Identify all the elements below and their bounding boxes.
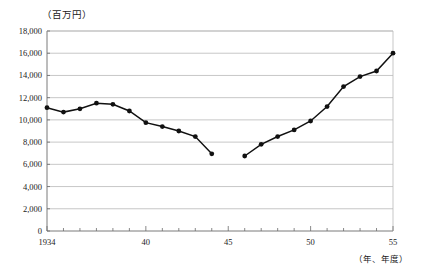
data-point-marker <box>143 120 148 125</box>
data-point-marker <box>61 110 66 115</box>
data-point-marker <box>111 102 116 107</box>
y-tick-label: 2,000 <box>23 204 42 214</box>
y-axis-unit-label: （百万円） <box>42 9 92 20</box>
data-point-marker <box>358 74 363 79</box>
data-point-marker <box>242 154 247 159</box>
data-point-marker <box>94 101 99 106</box>
data-point-marker <box>275 134 280 139</box>
x-axis-tick-marks <box>47 226 393 231</box>
x-tick-label: 45 <box>224 237 233 247</box>
y-tick-label: 6,000 <box>23 159 42 169</box>
x-tick-label: 40 <box>142 237 151 247</box>
data-point-marker <box>176 129 181 134</box>
gridline-group <box>47 31 393 231</box>
chart-canvas: 02,0004,0006,0008,00010,00012,00014,0001… <box>0 0 426 266</box>
data-point-marker <box>193 134 198 139</box>
x-tick-label: 50 <box>306 237 315 247</box>
x-tick-label: 1934 <box>39 237 57 247</box>
data-point-marker <box>160 124 165 129</box>
data-point-marker <box>325 104 330 109</box>
y-axis-tick-labels: 02,0004,0006,0008,00010,00012,00014,0001… <box>19 26 50 236</box>
data-point-marker <box>209 151 214 156</box>
data-point-marker <box>78 106 83 111</box>
y-tick-label: 16,000 <box>19 48 42 58</box>
data-point-marker <box>292 127 297 132</box>
x-tick-label: 55 <box>389 237 398 247</box>
data-point-marker <box>127 109 132 114</box>
y-tick-label: 14,000 <box>19 70 42 80</box>
y-tick-label: 4,000 <box>23 182 42 192</box>
series-line-segment-postwar <box>245 53 393 156</box>
data-point-marker <box>391 51 396 56</box>
y-tick-label: 8,000 <box>23 137 42 147</box>
plot-frame <box>47 31 393 231</box>
y-tick-label: 10,000 <box>19 115 42 125</box>
x-axis-unit-label: （年、年度） <box>354 254 408 264</box>
data-point-marker <box>374 69 379 74</box>
data-point-marker <box>45 105 50 110</box>
x-axis-tick-labels: 193440455055 <box>39 237 398 247</box>
y-tick-label: 0 <box>38 226 42 236</box>
data-point-marker <box>259 142 264 147</box>
data-point-marker <box>341 84 346 89</box>
data-point-marker <box>308 119 313 124</box>
y-tick-label: 18,000 <box>19 26 42 36</box>
line-chart: 02,0004,0006,0008,00010,00012,00014,0001… <box>0 0 426 266</box>
y-tick-label: 12,000 <box>19 93 42 103</box>
